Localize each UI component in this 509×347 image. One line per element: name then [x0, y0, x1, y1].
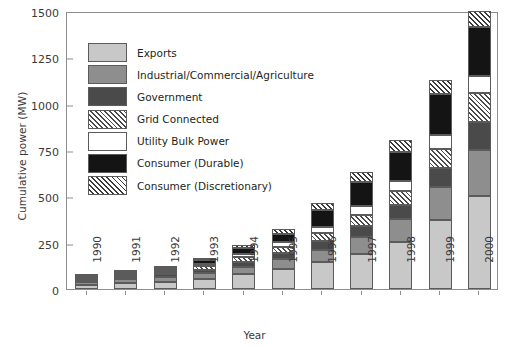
chart-legend: ExportsIndustrial/Commercial/Agriculture…	[88, 43, 314, 195]
x-tick-mark	[243, 291, 244, 295]
chart-figure: Cumulative power (MW) 025050075010001250…	[0, 0, 509, 347]
legend-swatch-utility	[88, 132, 127, 151]
bar-segment-discretionary	[429, 80, 452, 95]
x-tick-label: 1999	[444, 236, 456, 296]
x-tick-mark	[282, 291, 283, 295]
y-tick-label: 0	[52, 285, 67, 298]
bar-segment-durable	[350, 182, 373, 206]
bar-segment-durable	[311, 210, 334, 227]
bar-segment-government	[389, 205, 412, 219]
x-tick-label: 1990	[91, 236, 103, 296]
y-tick-label: 500	[38, 192, 67, 205]
legend-item[interactable]: Consumer (Durable)	[88, 154, 314, 173]
bar-segment-durable	[468, 27, 491, 76]
legend-swatch-discretionary	[88, 176, 127, 195]
y-tick-mark	[67, 59, 73, 60]
x-tick-mark	[478, 291, 479, 295]
x-tick-mark	[86, 291, 87, 295]
bar-segment-discretionary	[389, 140, 412, 152]
bar-segment-durable	[429, 94, 452, 135]
legend-label: Industrial/Commercial/Agriculture	[137, 69, 314, 81]
y-tick-label: 1000	[31, 99, 67, 112]
x-tick-mark	[203, 291, 204, 295]
bar-segment-industrial	[429, 187, 452, 219]
y-tick-label: 250	[38, 238, 67, 251]
bar-segment-discretionary	[350, 172, 373, 182]
bar-segment-utility	[311, 227, 334, 234]
legend-item[interactable]: Consumer (Discretionary)	[88, 176, 314, 195]
legend-item[interactable]: Utility Bulk Power	[88, 132, 314, 151]
x-tick-label: 1991	[130, 236, 142, 296]
x-tick-mark	[361, 291, 362, 295]
legend-item[interactable]: Government	[88, 87, 314, 106]
x-tick-label: 1997	[366, 236, 378, 296]
y-tick-label: 1250	[31, 53, 67, 66]
bar-segment-government	[468, 122, 491, 150]
bar-segment-utility	[350, 206, 373, 215]
legend-item[interactable]: Exports	[88, 43, 314, 62]
legend-item[interactable]: Industrial/Commercial/Agriculture	[88, 65, 314, 84]
x-tick-label: 1993	[208, 236, 220, 296]
y-tick-label: 750	[38, 146, 67, 159]
bar-segment-grid	[350, 215, 373, 226]
bar-segment-discretionary	[311, 203, 334, 210]
x-tick-label: 1995	[287, 236, 299, 296]
bar-segment-utility	[468, 76, 491, 94]
bar-segment-utility	[429, 135, 452, 149]
y-tick-mark	[67, 152, 73, 153]
legend-swatch-industrial	[88, 65, 127, 84]
x-tick-label: 1992	[169, 236, 181, 296]
bar-segment-grid	[429, 149, 452, 168]
x-tick-mark	[321, 291, 322, 295]
x-tick-label: 1996	[326, 236, 338, 296]
legend-label: Consumer (Durable)	[137, 157, 244, 169]
bar-segment-grid	[389, 191, 412, 204]
y-tick-mark	[67, 198, 73, 199]
bar-segment-discretionary	[468, 11, 491, 27]
x-tick-label: 2000	[483, 236, 495, 296]
bar-segment-durable	[389, 152, 412, 181]
y-axis-title: Cumulative power (MW)	[16, 56, 28, 256]
legend-label: Government	[137, 91, 202, 103]
x-tick-label: 1994	[248, 236, 260, 296]
bar-segment-discretionary	[272, 229, 295, 234]
x-tick-mark	[125, 291, 126, 295]
x-tick-label: 1998	[405, 236, 417, 296]
bar-segment-government	[429, 168, 452, 187]
x-axis-title: Year	[0, 329, 509, 341]
y-tick-mark	[67, 244, 73, 245]
bar-segment-industrial	[468, 150, 491, 196]
x-tick-mark	[164, 291, 165, 295]
legend-label: Utility Bulk Power	[137, 135, 229, 147]
bar-segment-grid	[468, 93, 491, 122]
legend-swatch-durable	[88, 154, 127, 173]
legend-item[interactable]: Grid Connected	[88, 110, 314, 129]
bar-segment-utility	[389, 181, 412, 192]
y-tick-mark	[67, 105, 73, 106]
legend-label: Grid Connected	[137, 113, 219, 125]
x-tick-mark	[439, 291, 440, 295]
legend-swatch-exports	[88, 43, 127, 62]
legend-label: Exports	[137, 47, 177, 59]
y-tick-label: 1500	[31, 7, 67, 20]
legend-label: Consumer (Discretionary)	[137, 180, 272, 192]
legend-swatch-government	[88, 87, 127, 106]
x-tick-mark	[400, 291, 401, 295]
legend-swatch-grid	[88, 110, 127, 129]
